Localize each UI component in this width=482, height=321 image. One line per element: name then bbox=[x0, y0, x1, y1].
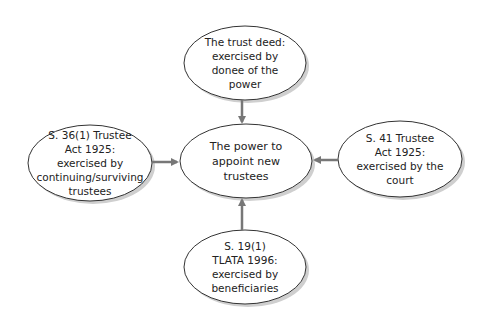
node-trust-deed: The trust deed: exercised by donee of th… bbox=[184, 26, 306, 100]
node-s36-trustee-act: S. 36(1) Trustee Act 1925: exercised by … bbox=[28, 125, 152, 201]
node-center-label: The power to appoint new trustees bbox=[210, 139, 283, 184]
node-s19-tlata: S. 19(1) TLATA 1996: exercised by benefi… bbox=[184, 230, 306, 304]
node-s19-label: S. 19(1) TLATA 1996: exercised by benefi… bbox=[211, 239, 278, 295]
node-power-to-appoint: The power to appoint new trustees bbox=[180, 124, 312, 198]
node-trust-deed-label: The trust deed: exercised by donee of th… bbox=[205, 35, 286, 91]
node-s41-label: S. 41 Trustee Act 1925: exercised by the… bbox=[357, 131, 444, 187]
node-s41-trustee-act: S. 41 Trustee Act 1925: exercised by the… bbox=[338, 121, 462, 197]
node-s36-label: S. 36(1) Trustee Act 1925: exercised by … bbox=[37, 128, 144, 198]
